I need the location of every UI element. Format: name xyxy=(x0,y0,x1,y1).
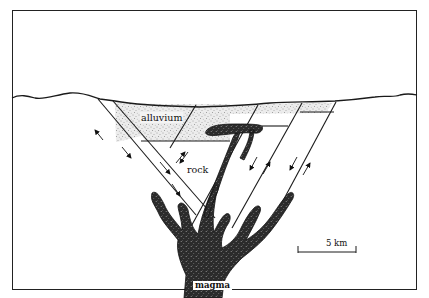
alluvium-label: alluvium xyxy=(140,112,183,123)
cross-section-diagram xyxy=(0,0,429,298)
magma-label: magma xyxy=(193,281,232,290)
rock-label: rock xyxy=(187,164,208,175)
scale-label: 5 km xyxy=(326,238,347,248)
